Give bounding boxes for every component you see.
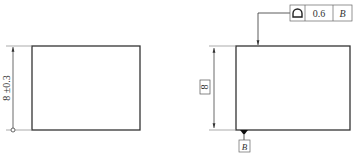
- left-dimension-text: 8 ±0.3: [1, 75, 12, 101]
- feature-control-frame: 0.6 B: [290, 5, 352, 21]
- fcf-datum-reference: B: [339, 8, 345, 19]
- fcf-leader-line: [258, 13, 290, 45]
- left-origin-circle: [11, 128, 15, 132]
- left-part-rectangle: [32, 46, 140, 130]
- right-dimension-text: 8: [199, 85, 210, 90]
- datum-feature-symbol: B: [239, 130, 250, 152]
- drawing-canvas: 8 ±0.3 8 0.6 B B: [0, 0, 357, 162]
- right-figure: 8 0.6 B B: [199, 5, 352, 152]
- right-part-rectangle: [236, 46, 350, 130]
- left-figure: 8 ±0.3: [1, 46, 140, 132]
- datum-triangle-icon: [240, 130, 248, 135]
- fcf-tolerance-value: 0.6: [313, 8, 326, 19]
- datum-label: B: [242, 142, 248, 152]
